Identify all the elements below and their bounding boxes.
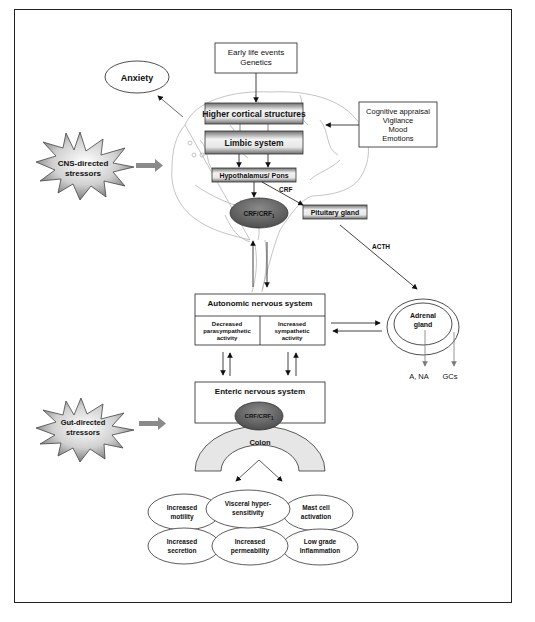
crf-receptor-gut: CRF/CRF1 xyxy=(235,402,283,430)
gut-stressor-arrow xyxy=(139,417,166,430)
svg-text:secretion: secretion xyxy=(168,547,197,554)
svg-text:sympathetic: sympathetic xyxy=(274,328,310,334)
svg-text:Increased: Increased xyxy=(167,538,197,545)
svg-text:Decreased: Decreased xyxy=(212,321,243,327)
svg-text:Inflammation: Inflammation xyxy=(300,547,340,554)
svg-text:Cognitive appraisal: Cognitive appraisal xyxy=(366,107,430,116)
svg-text:stressors: stressors xyxy=(65,169,102,178)
svg-text:Limbic system: Limbic system xyxy=(224,138,283,148)
svg-text:Hypothalamus/ Pons: Hypothalamus/ Pons xyxy=(219,172,288,180)
adrenal-output-gcs: GCs xyxy=(443,372,458,381)
stress-gut-brain-diagram: Early life events Genetics Anxiety Cogni… xyxy=(0,0,535,622)
acth-label: ACTH xyxy=(372,243,390,250)
arrow-acth xyxy=(340,225,417,289)
svg-text:Colon: Colon xyxy=(249,438,271,447)
svg-text:parasympathetic: parasympathetic xyxy=(203,328,251,334)
svg-text:Anxiety: Anxiety xyxy=(121,73,154,83)
svg-text:Mood: Mood xyxy=(389,125,408,134)
pituitary-box: Pituitary gland xyxy=(303,205,367,219)
svg-text:CNS-directed: CNS-directed xyxy=(58,159,109,168)
effect-increased-permeability xyxy=(212,527,288,565)
cns-stressors-burst: CNS-directed stressors xyxy=(36,132,134,200)
gut-stressors-burst: Gut-directed stressors xyxy=(36,398,134,462)
higher-cortical-box: Higher cortical structures xyxy=(202,103,306,124)
adrenal-output-a-na: A, NA xyxy=(409,372,429,381)
svg-text:Low grade: Low grade xyxy=(304,538,337,546)
effect-increased-secretion xyxy=(148,528,220,564)
svg-text:Genetics: Genetics xyxy=(240,58,272,67)
svg-text:Vigilance: Vigilance xyxy=(383,116,413,125)
svg-text:sensitivity: sensitivity xyxy=(232,509,264,517)
adrenal-gland: Adrenal gland xyxy=(387,299,459,355)
cognitive-box: Cognitive appraisal Vigilance Mood Emoti… xyxy=(359,102,437,147)
svg-text:Mast cell: Mast cell xyxy=(302,504,330,511)
svg-text:Enteric nervous system: Enteric nervous system xyxy=(215,387,305,396)
crf-receptor-brain: CRF/CRF1 xyxy=(230,198,288,228)
svg-text:Adrenal: Adrenal xyxy=(410,312,436,319)
cns-stressor-arrow xyxy=(136,159,163,172)
svg-text:Higher cortical structures: Higher cortical structures xyxy=(202,109,306,119)
svg-text:Increased: Increased xyxy=(278,321,306,327)
svg-text:Increased: Increased xyxy=(235,538,265,545)
svg-text:gland: gland xyxy=(414,321,433,329)
svg-text:Pituitary gland: Pituitary gland xyxy=(311,209,360,217)
svg-text:motility: motility xyxy=(170,513,193,521)
svg-text:activity: activity xyxy=(282,335,303,341)
svg-text:Emotions: Emotions xyxy=(382,134,414,143)
svg-text:Increased: Increased xyxy=(167,504,197,511)
svg-text:Visceral hyper-: Visceral hyper- xyxy=(225,500,272,508)
anxiety-oval: Anxiety xyxy=(105,61,169,93)
early-life-box: Early life events Genetics xyxy=(215,43,297,73)
crf-label: CRF xyxy=(279,186,292,193)
limbic-system-box: Limbic system xyxy=(205,131,303,154)
ans-box: Autonomic nervous system Decreased paras… xyxy=(195,294,325,345)
svg-text:Autonomic nervous system: Autonomic nervous system xyxy=(208,299,313,308)
svg-text:stressors: stressors xyxy=(66,428,100,437)
colon: Colon xyxy=(195,426,325,471)
svg-text:Gut-directed: Gut-directed xyxy=(61,418,106,427)
svg-text:activation: activation xyxy=(301,513,331,520)
svg-text:permeability: permeability xyxy=(231,547,270,555)
svg-text:activity: activity xyxy=(217,335,238,341)
svg-text:Early life events: Early life events xyxy=(228,48,284,57)
arrow-to-anxiety xyxy=(158,96,183,117)
hypothalamus-box: Hypothalamus/ Pons xyxy=(212,168,296,182)
